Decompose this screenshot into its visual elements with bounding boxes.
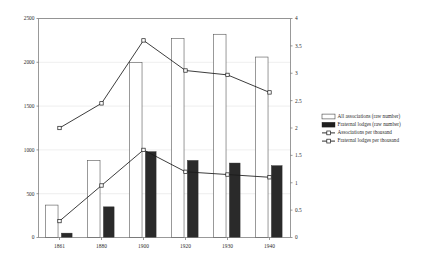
y-axis-tick-labels: 05001000150020002500 [24,15,35,240]
y-tick-label: 1500 [24,103,35,109]
y-tick-label: 2000 [24,59,35,65]
y2-tick-label: 1.5 [295,152,302,158]
data-point-marker [184,69,187,72]
x-tick-label: 1940 [264,243,275,249]
data-point-marker [184,170,187,173]
axis-frame [37,19,293,241]
data-point-marker [58,126,61,129]
line-fraternal-lodges-per-thousand [60,40,270,128]
x-tick-label: 1900 [138,243,149,249]
y2-tick-label: 3.5 [295,43,302,49]
legend-marker-sample [327,131,331,135]
data-point-marker [226,73,229,76]
x-tick-label: 1861 [54,243,65,249]
legend-swatch-solid-bar [322,122,335,127]
legend-item-label: Associations per thousand [338,129,393,135]
data-point-marker [100,184,103,187]
y2-tick-label: 3 [295,70,298,76]
y-tick-label: 2500 [24,15,35,21]
legend-item-label: Fraternal lodges per thousand [338,137,400,143]
bar-fraternal-lodges [145,152,156,238]
bar-fraternal-lodges [271,166,282,238]
legend-swatch-open-bar [322,114,335,119]
y2-tick-label: 2 [295,125,298,131]
y2-tick-label: 1 [295,180,298,186]
bar-fraternal-lodges [229,163,240,237]
data-point-marker [142,39,145,42]
x-tick-label: 1880 [96,243,107,249]
bar-fraternal-lodges [103,207,114,238]
bar-all-associations [129,62,142,237]
y2-tick-label: 0.5 [295,207,302,213]
gridlines [39,19,291,194]
bar-all-associations [45,205,58,237]
data-point-marker [268,176,271,179]
x-tick-label: 1920 [180,243,191,249]
y2-tick-label: 4 [295,15,298,21]
plot-frame [39,19,291,238]
chart-container: 05001000150020002500 00.511.522.533.54 1… [0,0,431,264]
bar-all-associations [87,160,100,237]
legend-item-label: Fraternal lodges (raw number) [338,121,402,128]
data-point-marker [142,148,145,151]
y2-tick-label: 2.5 [295,98,302,104]
bar-all-associations [213,34,226,237]
associations-chart: 05001000150020002500 00.511.522.533.54 1… [0,0,431,264]
legend-item-label: All associations (raw number) [338,113,401,120]
secondary-y-axis-tick-labels: 00.511.522.533.54 [295,15,302,240]
y-tick-label: 500 [26,191,34,197]
y-tick-label: 1000 [24,147,35,153]
legend-marker-sample [327,139,331,143]
data-point-marker [58,219,61,222]
bar-all-associations [255,57,268,237]
x-axis-tick-labels: 186118801900192019301940 [54,243,275,249]
data-point-marker [100,102,103,105]
data-point-marker [226,173,229,176]
chart-legend: All associations (raw number)Fraternal l… [322,113,401,144]
data-point-marker [268,91,271,94]
y-tick-label: 0 [32,234,35,240]
bar-fraternal-lodges [61,233,72,237]
x-tick-label: 1930 [222,243,233,249]
y2-tick-label: 0 [295,234,298,240]
